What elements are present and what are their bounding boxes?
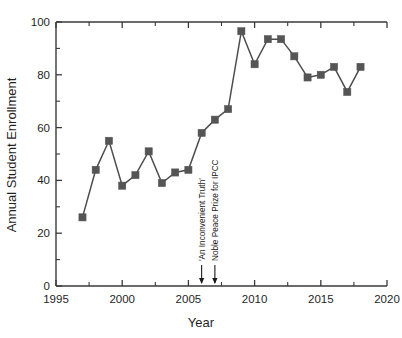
data-point-marker [211,116,218,123]
x-tick-label: 1995 [43,293,69,305]
data-point-marker [330,63,337,70]
y-tick-label: 80 [37,69,50,81]
y-axis-tick-labels: 020406080100 [31,16,50,292]
y-axis-title: Annual Student Enrollment [4,77,19,232]
annotation-arrowhead [212,278,217,284]
data-point-marker [317,71,324,78]
x-tick-label: 2005 [176,293,202,305]
data-point-marker [251,61,258,68]
y-tick-label: 100 [31,16,50,28]
y-tick-label: 60 [37,122,50,134]
data-point-marker [132,172,139,179]
data-point-marker [158,179,165,186]
annotation-label-nobel-ipcc: Noble Peace Prize for IPCC [211,159,220,261]
data-point-marker [92,166,99,173]
top-axis-ticks [56,22,387,28]
y-tick-label: 0 [44,280,50,292]
data-point-marker [291,53,298,60]
data-point-marker [304,74,311,81]
data-point-marker [185,166,192,173]
data-point-marker [264,36,271,43]
x-tick-label: 2000 [109,293,135,305]
data-point-marker [79,214,86,221]
x-axis-tick-labels: 199520002005201020152020 [43,293,400,305]
data-point-marker [238,28,245,35]
y-tick-label: 40 [37,174,50,186]
series-markers [79,28,364,221]
data-point-marker [225,106,232,113]
x-tick-label: 2015 [308,293,334,305]
annotation-layer: 'An Inconvenient Truth'Noble Peace Prize… [198,159,220,284]
annotation-arrowhead [199,278,204,284]
data-point-marker [105,137,112,144]
enrollment-line-chart: 020406080100 199520002005201020152020 'A… [0,0,402,338]
x-tick-label: 2010 [242,293,268,305]
data-point-marker [198,129,205,136]
data-point-marker [172,169,179,176]
data-point-marker [145,148,152,155]
annotation-label-inconvenient-truth: 'An Inconvenient Truth' [198,178,207,261]
data-point-marker [119,182,126,189]
data-point-marker [344,88,351,95]
x-axis-title: Year [188,315,215,330]
y-tick-label: 20 [37,227,50,239]
data-point-marker [357,63,364,70]
chart-canvas: 020406080100 199520002005201020152020 'A… [0,0,402,338]
x-tick-label: 2020 [374,293,400,305]
data-point-marker [277,36,284,43]
